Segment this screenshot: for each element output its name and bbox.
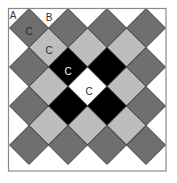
label-c: C	[45, 45, 52, 56]
diamond-tiling-diagram: ABCCCC	[0, 0, 177, 183]
label-a: A	[10, 10, 17, 21]
label-c: C	[25, 26, 32, 37]
label-c: C	[64, 66, 71, 77]
label-c: C	[85, 86, 92, 97]
label-b: B	[46, 12, 53, 23]
